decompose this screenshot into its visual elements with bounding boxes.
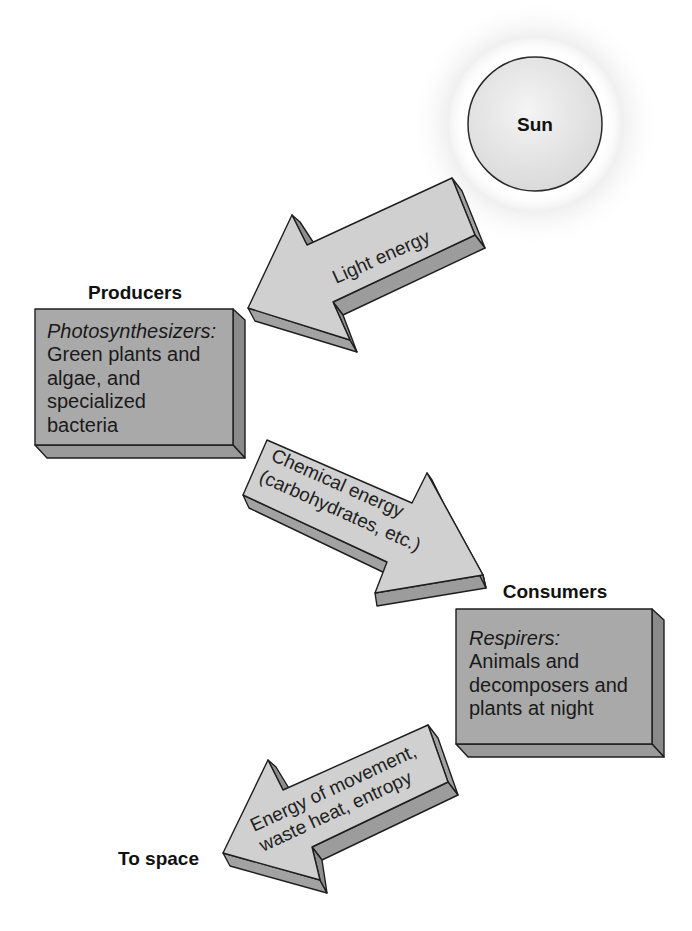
consumers-line: decomposers and [469, 674, 628, 696]
box-side-face [652, 609, 664, 757]
sun-label: Sun [517, 114, 553, 135]
producers-line: algae, and [47, 367, 140, 389]
consumers-box: Consumers Respirers: Animals and decompo… [456, 581, 664, 757]
box-bottom-face [35, 445, 245, 458]
chemical-energy-arrow: Chemical energy (carbohydrates, etc.) [243, 440, 486, 606]
energy-flow-diagram: Sun Light energy Producers Photosynthesi… [0, 0, 692, 931]
box-side-face [233, 309, 245, 458]
producers-category: Photosynthesizers: [47, 320, 216, 342]
waste-energy-arrow: Energy of movement, waste heat, entropy [223, 725, 458, 893]
to-space-label: To space [118, 848, 199, 869]
light-energy-arrow: Light energy [248, 178, 485, 352]
consumers-line: Animals and [469, 650, 579, 672]
box-bottom-face [456, 744, 664, 757]
producers-title: Producers [88, 282, 182, 303]
consumers-line: plants at night [469, 697, 594, 719]
producers-line: specialized [47, 390, 146, 412]
consumers-category: Respirers: [469, 627, 560, 649]
consumers-title: Consumers [503, 581, 608, 602]
producers-line: bacteria [47, 414, 119, 436]
producers-box: Producers Photosynthesizers: Green plant… [35, 282, 245, 458]
producers-line: Green plants and [47, 343, 200, 365]
